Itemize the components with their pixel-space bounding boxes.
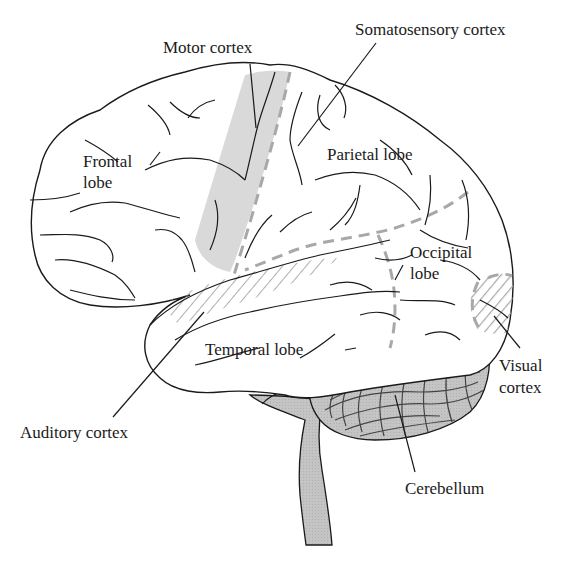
brain-diagram: Motor cortex Somatosensory cortex Fronta… xyxy=(0,0,582,565)
brain-illustration xyxy=(0,0,582,565)
label-visual-cortex-line2: cortex xyxy=(499,378,541,397)
label-auditory-cortex: Auditory cortex xyxy=(20,423,128,442)
label-temporal-lobe: Temporal lobe xyxy=(205,340,303,359)
label-parietal-lobe: Parietal lobe xyxy=(327,145,412,164)
label-motor-cortex: Motor cortex xyxy=(163,38,252,57)
label-occipital-lobe-line1: Occipital xyxy=(410,243,472,262)
label-cerebellum: Cerebellum xyxy=(405,479,484,498)
label-somatosensory-cortex: Somatosensory cortex xyxy=(355,20,506,39)
label-occipital-lobe-line2: lobe xyxy=(410,264,439,283)
label-visual-cortex-line1: Visual xyxy=(499,356,542,375)
label-frontal-lobe-line2: lobe xyxy=(83,173,112,192)
label-frontal-lobe-line1: Frontal xyxy=(83,152,132,171)
